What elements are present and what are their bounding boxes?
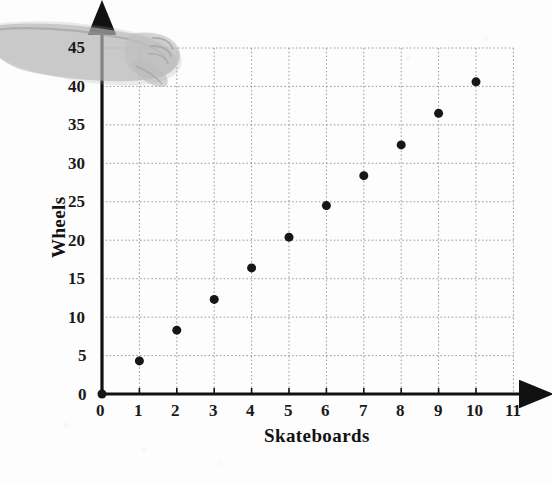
y-tick-label: 15 xyxy=(68,269,85,289)
x-tick-label: 10 xyxy=(466,401,483,421)
y-tick-label: 35 xyxy=(68,115,85,135)
x-tick-label: 4 xyxy=(246,401,255,421)
x-tick-label: 5 xyxy=(284,401,293,421)
data-point xyxy=(472,77,481,86)
data-point xyxy=(210,295,219,304)
x-tick-label: 11 xyxy=(505,401,521,421)
data-point xyxy=(285,233,294,242)
grid-vertical xyxy=(102,48,513,394)
data-point xyxy=(135,356,144,365)
x-tick-label: 7 xyxy=(359,401,368,421)
data-point xyxy=(247,263,256,272)
data-point xyxy=(322,201,331,210)
grid-horizontal xyxy=(102,48,513,394)
data-point xyxy=(172,326,181,335)
x-tick-label: 1 xyxy=(134,401,143,421)
y-tick-label: 40 xyxy=(68,77,85,97)
x-tick-label: 8 xyxy=(396,401,405,421)
y-tick-label: 5 xyxy=(78,346,87,366)
y-tick-label: 0 xyxy=(78,385,87,405)
y-tick-label: 20 xyxy=(68,231,85,251)
x-tick-label: 2 xyxy=(171,401,180,421)
data-point xyxy=(397,140,406,149)
y-tick-label: 25 xyxy=(68,192,85,212)
scanned-hand-artifact xyxy=(0,21,182,87)
x-tick-label: 6 xyxy=(321,401,330,421)
y-tick-label: 10 xyxy=(68,308,85,328)
data-point xyxy=(359,171,368,180)
x-tick-label: 9 xyxy=(434,401,443,421)
x-axis-label: Skateboards xyxy=(264,425,370,447)
x-tick-label: 3 xyxy=(209,401,218,421)
y-tick-label: 45 xyxy=(68,38,85,58)
scatter-plot-page: 0 5 10 15 20 25 30 35 40 45 0 1 2 3 4 5 … xyxy=(0,0,552,483)
data-point xyxy=(98,390,107,399)
data-point xyxy=(434,109,443,118)
y-axis-label: Wheels xyxy=(48,196,70,258)
x-tick-label: 0 xyxy=(96,401,105,421)
y-tick-label: 30 xyxy=(68,154,85,174)
